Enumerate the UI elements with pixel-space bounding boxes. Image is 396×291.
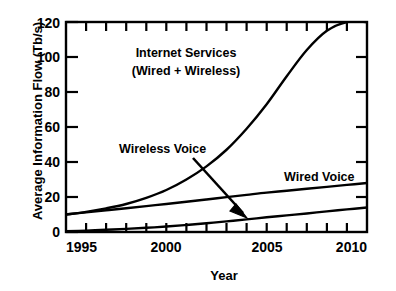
x-tick-label: 2000 [150,239,181,255]
x-axis-title: Year [158,268,237,283]
y-tick-label: 40 [44,154,60,170]
x-tick-labels: 1995 2000 2005 2010 [66,239,367,255]
x-axis-title-wrapper: Year [0,266,396,284]
y-tick-label: 20 [44,189,60,205]
y-tick-label: 80 [44,84,60,100]
x-tick-label: 2005 [251,239,282,255]
wireless-voice-label: Wireless Voice [119,142,206,156]
y-axis-title-wrapper: Average Information Flow (Tb/s) [28,21,46,221]
line-chart: 0 20 40 60 80 100 120 1995 2000 2005 201… [0,0,396,291]
internet-services-label-line1: Internet Services [136,46,237,60]
y-tick-label: 60 [44,119,60,135]
x-tick-label: 1995 [66,239,97,255]
y-axis-title: Average Information Flow (Tb/s) [30,22,45,220]
internet-services-label-line2: (Wired + Wireless) [132,64,241,78]
wired-voice-label: Wired Voice [284,170,355,184]
y-tick-label: 0 [52,224,60,240]
x-tick-label: 2010 [336,239,367,255]
chart-figure: 0 20 40 60 80 100 120 1995 2000 2005 201… [0,0,396,291]
